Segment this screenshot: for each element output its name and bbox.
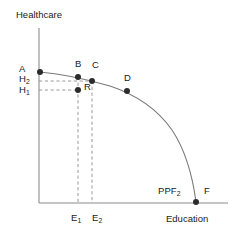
x-tick-e2-sub: 2 (98, 217, 102, 224)
y-tick-h2-sub: 2 (26, 78, 30, 85)
y-axis-title: Healthcare (16, 10, 62, 20)
data-point-a (37, 69, 43, 75)
point-label-f: F (204, 186, 210, 196)
curve-label-ppf2: PPF2 (158, 186, 181, 196)
y-tick-h1-main: H (19, 84, 26, 95)
data-point-b (75, 74, 81, 80)
y-tick-label-h2: H2 (19, 74, 30, 84)
data-point-d (124, 88, 130, 94)
curve-label-ppf2-sub: 2 (177, 190, 181, 197)
data-point-f (193, 199, 199, 205)
x-tick-label-e2: E2 (92, 213, 102, 223)
y-tick-label-h1: H1 (19, 85, 30, 95)
x-tick-e1-sub: 1 (77, 217, 81, 224)
point-label-d: D (124, 73, 131, 83)
x-tick-label-e1: E1 (71, 213, 81, 223)
y-tick-h1-sub: 1 (26, 89, 30, 96)
point-label-b: B (75, 59, 81, 69)
data-point-r (75, 87, 81, 93)
point-label-c: C (92, 60, 99, 70)
ppf-figure: Healthcare Education A B C D R F H2 H1 E… (0, 0, 239, 240)
plot-canvas (0, 0, 239, 240)
point-label-r: R (84, 82, 91, 92)
y-tick-h2-main: H (19, 73, 26, 84)
ppf-curve (40, 72, 196, 202)
x-axis-title: Education (166, 214, 208, 224)
curve-label-ppf2-main: PPF (158, 185, 177, 196)
